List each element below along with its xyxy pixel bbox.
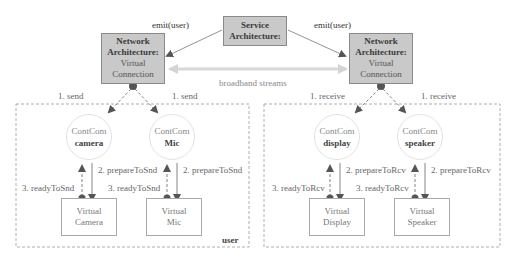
ready-label-speaker: 3. readyToRcv [356,183,409,193]
network-architecture-left: Network Architecture: Virtual Connection [101,33,165,84]
virtual-camera-box: Virtual Camera [61,198,117,236]
contcom-camera: ContCom camera [66,114,112,160]
virtual-display-line1: Virtual [310,206,364,217]
contcom-speaker-name: speaker [398,137,442,149]
contcom-display: ContCom display [314,114,360,160]
ready-label-display: 3. readyToRcv [272,183,325,193]
virtual-display-line2: Display [310,217,364,228]
receiver-domain-frame [264,104,500,247]
contcom-camera-name: camera [67,137,111,149]
network-left-line4: Connection [102,69,164,80]
receive-label-left: 1. receive [310,91,345,101]
network-left-line1: Network [102,36,164,47]
contcom-display-type: ContCom [315,125,359,137]
contcom-speaker-type: ContCom [398,125,442,137]
virtual-camera-line1: Virtual [62,206,116,217]
virtual-mic-line1: Virtual [147,206,201,217]
emit-label-left: emit(user) [152,20,189,30]
contcom-camera-type: ContCom [67,125,111,137]
emit-arrow-left [167,30,222,56]
virtual-speaker-line1: Virtual [395,206,449,217]
network-right-line1: Network [350,36,412,47]
prepare-label-speaker: 2. prepareToRcv [431,165,491,175]
ready-label-camera: 3. readyToSnd [22,183,74,193]
virtual-camera-line2: Camera [62,217,116,228]
network-right-line2: Architecture: [350,47,412,58]
virtual-mic-line2: Mic [147,217,201,228]
network-architecture-right: Network Architecture: Virtual Connection [349,33,413,84]
contcom-speaker: ContCom speaker [397,114,443,160]
virtual-display-box: Virtual Display [309,198,365,236]
network-right-line3: Virtual [350,58,412,69]
send-label-left: 1. send [58,91,84,101]
network-right-line4: Connection [350,69,412,80]
service-architecture-box: Service Architecture: [223,16,287,46]
network-left-line3: Virtual [102,58,164,69]
emit-label-right: emit(user) [314,20,351,30]
contcom-mic-name: Mic [150,137,194,149]
service-line2: Architecture: [224,31,286,42]
contcom-mic-type: ContCom [150,125,194,137]
user-domain-label: user [222,235,239,245]
virtual-speaker-line2: Speaker [395,217,449,228]
broadband-label: broadband streams [219,78,287,88]
emit-arrow-right [288,30,345,56]
network-left-line2: Architecture: [102,47,164,58]
send-label-right: 1. send [172,91,198,101]
ready-label-mic: 3. readyToSnd [108,183,160,193]
contcom-mic: ContCom Mic [149,114,195,160]
contcom-display-name: display [315,137,359,149]
user-domain-frame [16,104,249,247]
receive-label-right: 1. receive [421,91,456,101]
virtual-speaker-box: Virtual Speaker [394,198,450,236]
service-line1: Service [224,20,286,31]
prepare-label-camera: 2. prepareToSnd [98,165,157,175]
prepare-label-display: 2. prepareToRcv [346,165,406,175]
prepare-label-mic: 2. prepareToSnd [183,165,242,175]
virtual-mic-box: Virtual Mic [146,198,202,236]
